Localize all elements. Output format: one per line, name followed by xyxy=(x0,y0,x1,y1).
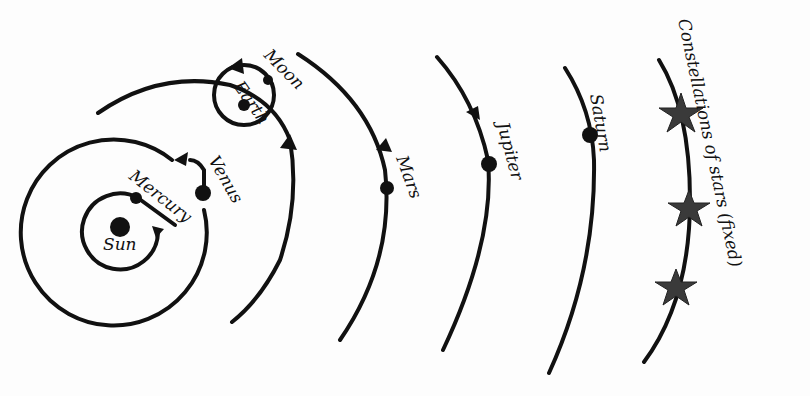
sun-label: Sun xyxy=(103,234,137,254)
mars-orbit xyxy=(298,54,392,340)
mercury xyxy=(130,192,142,204)
mars-label: Mars xyxy=(392,152,426,202)
venus-label: Venus xyxy=(205,152,248,207)
venus xyxy=(195,185,211,201)
moon-label: Moon xyxy=(259,44,308,93)
moon xyxy=(263,75,273,85)
mars xyxy=(380,181,394,195)
jupiter-orbit xyxy=(437,57,489,350)
jupiter xyxy=(481,156,497,172)
jupiter-label: Jupiter xyxy=(492,117,528,183)
solar-system-diagram: Sun Mercury Venus Earth Moon Mars Jupite xyxy=(0,0,810,396)
saturn-orbit xyxy=(549,68,594,373)
